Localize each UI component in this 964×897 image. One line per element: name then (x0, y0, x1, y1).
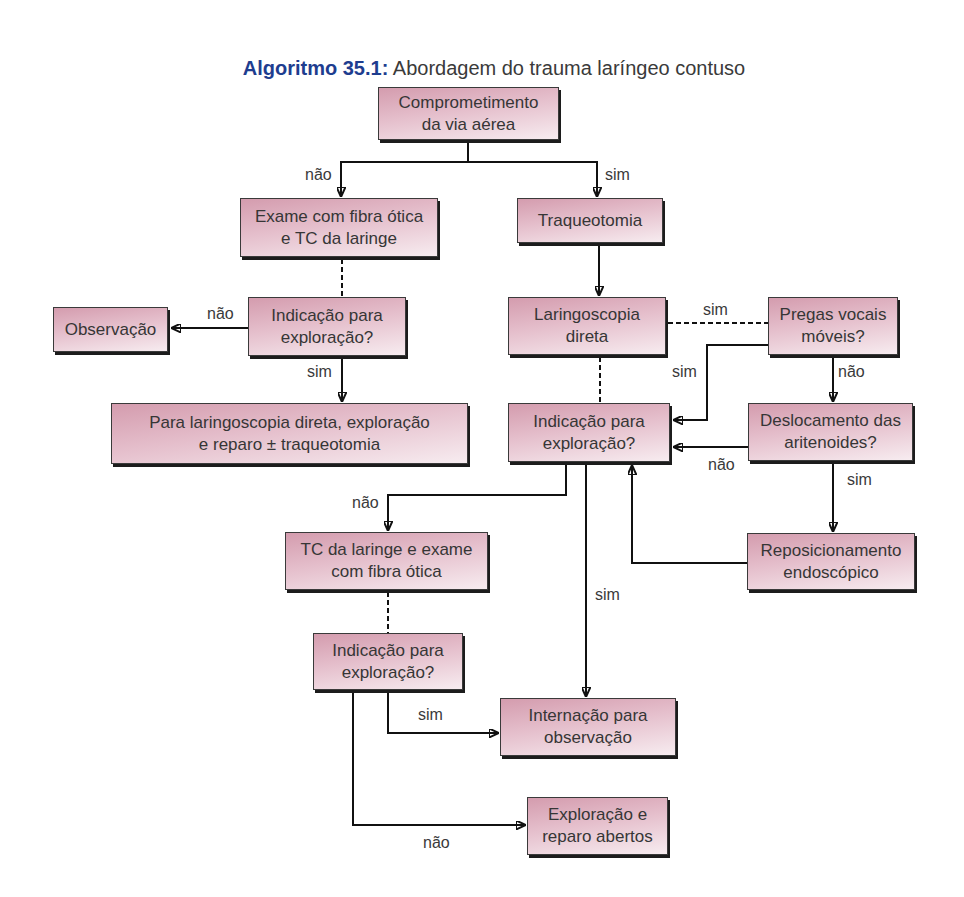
edge-label-nao: não (838, 362, 865, 382)
edge-label-sim: sim (418, 705, 443, 725)
node-text: Indicação para (271, 305, 383, 327)
node-text: Indicação para (533, 411, 645, 433)
edge-indicacao3-internacao (388, 692, 499, 733)
node-text: Deslocamento das (760, 410, 901, 432)
node-text: Exploração e (548, 804, 647, 826)
node-text: Para laringoscopia direta, exploração (149, 412, 430, 434)
node-traqueotomia: Traqueotomia (517, 198, 663, 243)
edge-label-nao: não (708, 455, 735, 475)
edge-comprometimento-exame (341, 142, 468, 197)
node-text: móveis? (801, 326, 864, 348)
node-text: Pregas vocais (780, 304, 887, 326)
node-text: e reparo ± traqueotomia (199, 434, 380, 456)
edge-label-sim: sim (605, 165, 630, 185)
node-text: TC da laringe e exame (301, 539, 473, 561)
edge-label-nao: não (352, 493, 379, 513)
node-text: Observação (65, 319, 157, 341)
node-text: da via aérea (422, 114, 516, 136)
node-internacao-observacao: Internação para observação (500, 698, 676, 756)
node-reposicionamento-endoscopico: Reposicionamento endoscópico (747, 533, 915, 590)
edge-label-sim: sim (307, 362, 332, 382)
edge-label-sim: sim (703, 300, 728, 320)
edge-label-sim: sim (595, 585, 620, 605)
edge-label-nao: não (207, 304, 234, 324)
node-text: reparo abertos (542, 826, 653, 848)
node-para-laringoscopia-direta: Para laringoscopia direta, exploração e … (111, 403, 468, 464)
edge-reposicionamento-indicacao2 (632, 465, 747, 563)
node-text: direta (566, 326, 609, 348)
node-text: Internação para (528, 705, 647, 727)
node-pregas-vocais-moveis: Pregas vocais móveis? (768, 297, 898, 355)
edge-indicacao2-tc (388, 464, 566, 531)
node-deslocamento-aritenoides: Deslocamento das aritenoides? (748, 403, 913, 461)
node-tc-laringe-exame: TC da laringe e exame com fibra ótica (285, 532, 488, 590)
node-text: exploração? (281, 327, 374, 349)
node-text: Laringoscopia (534, 304, 640, 326)
node-text: Comprometimento (399, 92, 539, 114)
edge-label-nao: não (305, 165, 332, 185)
node-indicacao-exploracao-2: Indicação para exploração? (508, 403, 670, 462)
node-text: exploração? (342, 662, 435, 684)
node-exame-fibra-otica: Exame com fibra ótica e TC da laringe (240, 198, 438, 257)
node-comprometimento-via-aerea: Comprometimento da via aérea (378, 87, 559, 140)
node-text: Indicação para (332, 640, 444, 662)
edge-comprometimento-traqueotomia (468, 162, 597, 197)
node-text: endoscópico (783, 562, 878, 584)
node-text: e TC da laringe (281, 228, 397, 250)
node-laringoscopia-direta: Laringoscopia direta (508, 297, 666, 355)
node-text: com fibra ótica (331, 561, 442, 583)
edge-label-sim: sim (847, 470, 872, 490)
node-indicacao-exploracao-1: Indicação para exploração? (248, 297, 406, 356)
node-text: Exame com fibra ótica (255, 206, 423, 228)
node-observacao: Observação (53, 307, 168, 352)
edge-label-sim: sim (672, 362, 697, 382)
node-indicacao-exploracao-3: Indicação para exploração? (313, 633, 463, 690)
node-text: Reposicionamento (761, 540, 902, 562)
node-exploracao-reparo-abertos: Exploração e reparo abertos (527, 797, 668, 855)
node-text: exploração? (543, 433, 636, 455)
node-text: Traqueotomia (538, 210, 642, 232)
node-text: observação (544, 727, 632, 749)
node-text: aritenoides? (784, 432, 877, 454)
edge-label-nao: não (423, 833, 450, 853)
